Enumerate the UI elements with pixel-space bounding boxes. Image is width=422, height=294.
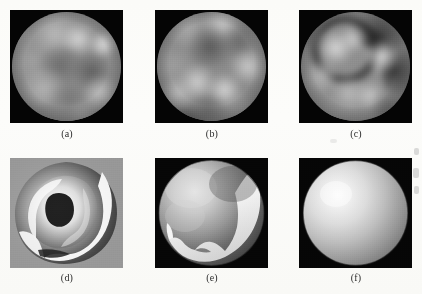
panel-c-field-of-view (301, 12, 410, 121)
panel-b-caption: (b) (152, 128, 272, 139)
panel-f-caption: (f) (296, 272, 416, 283)
panel-c-grain (301, 12, 410, 121)
panel-e-grain (155, 158, 268, 268)
panel-d-image (10, 158, 123, 268)
panel-a-image (10, 10, 123, 123)
panel-b-grain (157, 12, 266, 121)
panel-a-field-of-view (12, 12, 121, 121)
panel-e-caption: (e) (152, 272, 272, 283)
panel-a-caption: (a) (7, 128, 127, 139)
scan-artifact (414, 186, 419, 194)
figure-panel-grid: (a) (b) (0, 0, 422, 294)
scan-artifact (413, 168, 419, 178)
panel-f-image (299, 158, 412, 268)
panel-e-image (155, 158, 268, 268)
panel-a-grain (12, 12, 121, 121)
panel-c-caption: (c) (296, 128, 416, 139)
panel-b-image (155, 10, 268, 123)
scan-artifact (330, 139, 337, 143)
panel-c-image (299, 10, 412, 123)
panel-d-grain (10, 158, 123, 268)
panel-d-caption: (d) (7, 272, 127, 283)
scan-artifact (414, 148, 419, 155)
panel-b-field-of-view (157, 12, 266, 121)
panel-f-grain (299, 158, 412, 268)
